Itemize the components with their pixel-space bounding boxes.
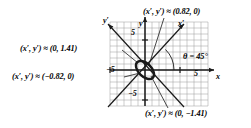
annotation-point-y-prime-positive: (x′, y′) ≈ (0, 1.41) (20, 45, 77, 53)
y-axis-tick-label-5: 5 (131, 29, 135, 37)
annotation-point-y-prime-negative: (x′, y′) ≈ (0, −1.41) (145, 110, 207, 118)
theta-angle-label: θ = 45° (183, 53, 208, 61)
rotated-axes-figure (0, 0, 251, 128)
x-axis-label: x (216, 73, 220, 81)
x-axis (110, 68, 214, 72)
y-axis-tick-label-minus-5: −5 (128, 90, 137, 98)
theta-arc (166, 50, 175, 71)
annotation-point-x-prime-negative: (x′, y′) ≈ (−0.82, 0) (12, 73, 74, 81)
x-axis-tick-label-5: 5 (194, 70, 198, 78)
y-prime-axis-label: y′ (103, 17, 109, 25)
x-prime-axis-label: x′ (178, 20, 184, 28)
y-axis-label: y (139, 20, 143, 28)
annotation-point-x-prime-positive: (x′, y′) ≈ (0.82, 0) (143, 8, 200, 16)
x-axis-tick-label-minus-5: −5 (106, 66, 115, 74)
